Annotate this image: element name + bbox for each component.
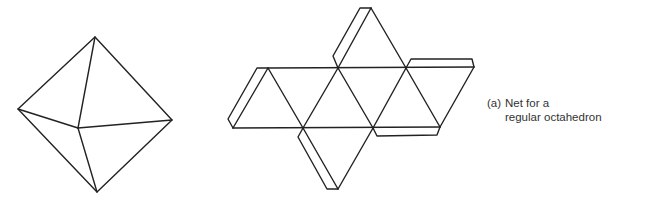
octahedron-net-drawing [228,8,474,189]
glue-tab-lower-right [373,127,440,136]
net-edge [233,68,268,128]
caption-line-2: regular octahedron [487,110,602,124]
net-edge [440,67,474,127]
net-edge [373,68,406,128]
net-edge [338,68,373,128]
net-bottom-line [233,127,440,128]
net-bottom-triangle-right [338,128,373,189]
net-edge [406,68,440,127]
net-edge [268,68,303,128]
octahedron-3d-drawing [18,37,172,192]
net-edge [303,68,338,128]
caption-line-1: Net for a [505,97,549,109]
figure-caption: (a)Net for a regular octahedron [487,96,602,124]
net-top-line [268,67,474,68]
octahedron-edge-right-center [78,120,172,128]
caption-label: (a) [487,96,505,110]
net-top-triangle-right [371,8,406,68]
octahedron-outline [18,37,172,192]
net-bottom-triangle-left [303,128,338,189]
